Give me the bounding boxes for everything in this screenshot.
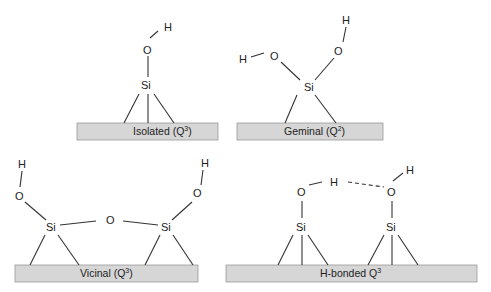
bond	[368, 235, 384, 265]
bond	[278, 235, 293, 265]
atom-si: Si	[304, 81, 314, 93]
panel-isolated: Si O H Isolated (Q3)	[77, 21, 218, 140]
atom-si1: Si	[46, 221, 56, 233]
label-h-bonded: H-bonded Q3	[320, 267, 381, 279]
atom-h2: H	[406, 164, 414, 176]
atom-o1: O	[15, 190, 24, 202]
bond	[398, 235, 418, 265]
hydrogen-bond	[348, 182, 384, 187]
bond	[309, 182, 322, 185]
atom-o2: O	[387, 186, 396, 198]
label-geminal: Geminal (Q2)	[284, 125, 345, 137]
atom-h1: H	[330, 176, 338, 188]
bond	[123, 221, 158, 225]
bond	[58, 235, 79, 265]
label-isolated: Isolated (Q3)	[133, 125, 192, 137]
bond	[150, 31, 158, 38]
atom-si1: Si	[296, 221, 306, 233]
bond	[393, 173, 403, 181]
atom-h2: H	[342, 14, 350, 26]
atom-o1: O	[270, 50, 279, 62]
panel-geminal: Si O H O H Geminal (Q2)	[237, 14, 383, 140]
atom-o2: O	[334, 45, 343, 57]
atom-o2: O	[193, 187, 202, 199]
atom-h1: H	[18, 158, 26, 170]
atom-o: O	[143, 44, 152, 56]
atom-o1: O	[297, 186, 306, 198]
bond	[124, 94, 139, 123]
atom-h2: H	[201, 157, 209, 169]
bond	[281, 62, 300, 80]
bond	[201, 170, 203, 185]
bond	[172, 202, 192, 220]
bond	[315, 95, 336, 123]
bond	[343, 27, 346, 42]
atom-si2: Si	[161, 221, 171, 233]
atom-si: Si	[141, 79, 151, 91]
bond	[60, 221, 96, 225]
bond	[308, 235, 328, 265]
bond	[30, 235, 45, 265]
bond	[25, 202, 46, 220]
bond	[145, 235, 160, 265]
bond	[251, 53, 264, 57]
atom-h: H	[164, 21, 172, 33]
bond	[154, 94, 174, 123]
panel-h-bonded: Si O H Si O H H-bonded Q3	[226, 164, 477, 282]
atom-h1: H	[239, 53, 247, 65]
label-vicinal: Vicinal (Q3)	[80, 267, 133, 279]
bond	[173, 235, 193, 265]
atom-bridge-o: O	[106, 214, 115, 226]
silanol-diagram: Si O H Isolated (Q3) Si O H O H Geminal …	[0, 0, 491, 292]
panel-vicinal: Si O H O Si O H Vicinal (Q3)	[15, 157, 209, 282]
bond	[20, 171, 22, 187]
bond	[315, 58, 334, 80]
atom-si2: Si	[386, 221, 396, 233]
bond	[285, 95, 297, 123]
